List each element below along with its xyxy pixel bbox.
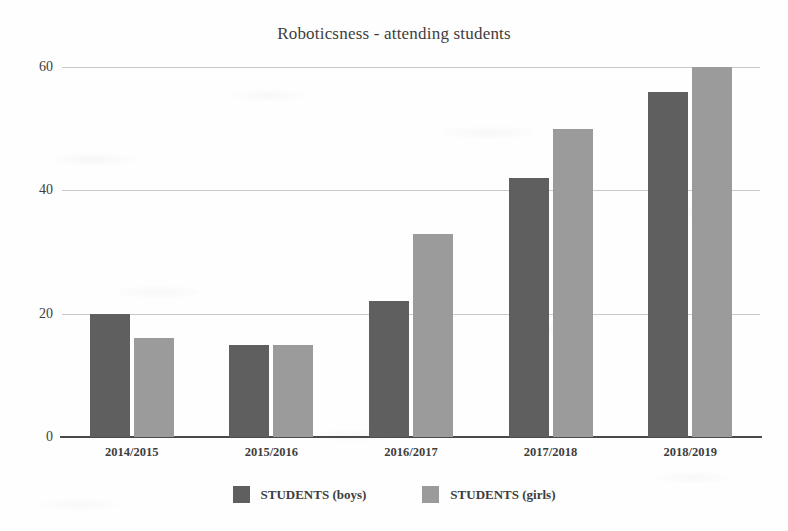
bar-girls[interactable] (134, 338, 174, 437)
bar-girls[interactable] (553, 129, 593, 437)
x-axis-tick-label: 2017/2018 (524, 445, 577, 460)
legend-item[interactable]: STUDENTS (girls) (422, 486, 555, 503)
x-axis-tick-label: 2018/2019 (663, 445, 716, 460)
legend-swatch-icon (233, 486, 250, 503)
x-axis-tick-label: 2015/2016 (245, 445, 298, 460)
bar-group: 2015/2016 (205, 67, 337, 437)
legend-item[interactable]: STUDENTS (boys) (233, 486, 367, 503)
bar-boys[interactable] (229, 345, 269, 438)
x-axis-tick-label: 2016/2017 (384, 445, 437, 460)
legend-label: STUDENTS (girls) (450, 487, 555, 503)
bar-groups: 2014/20152015/20162016/20172017/20182018… (62, 67, 760, 437)
bar-boys[interactable] (509, 178, 549, 437)
bar-boys[interactable] (90, 314, 130, 437)
y-axis-tick-label: 60 (39, 59, 53, 75)
bar-group: 2014/2015 (66, 67, 198, 437)
bar-girls[interactable] (273, 345, 313, 438)
y-axis-tick-label: 40 (39, 182, 53, 198)
bar-group: 2018/2019 (624, 67, 756, 437)
x-axis-tick-label: 2014/2015 (105, 445, 158, 460)
bar-girls[interactable] (413, 234, 453, 438)
chart-legend: STUDENTS (boys)STUDENTS (girls) (0, 486, 788, 503)
y-axis-tick-label: 0 (46, 429, 53, 445)
chart-screenshot: Roboticsness - attending students 020406… (0, 0, 788, 531)
bar-group: 2017/2018 (485, 67, 617, 437)
bar-group: 2016/2017 (345, 67, 477, 437)
legend-swatch-icon (422, 486, 439, 503)
legend-label: STUDENTS (boys) (261, 487, 367, 503)
plot-area: 0204060 2014/20152015/20162016/20172017/… (62, 67, 760, 437)
bar-girls[interactable] (692, 67, 732, 437)
y-axis-tick-label: 20 (39, 306, 53, 322)
chart-title: Roboticsness - attending students (0, 24, 788, 44)
bar-boys[interactable] (648, 92, 688, 437)
bar-boys[interactable] (369, 301, 409, 437)
